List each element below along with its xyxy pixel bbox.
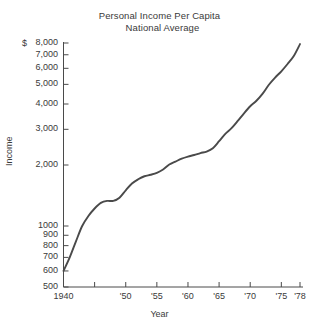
- plot-area: [0, 0, 319, 334]
- axis-lines: [64, 42, 304, 287]
- data-series-lines: [64, 44, 301, 271]
- data-line-personal-income: [64, 44, 301, 271]
- chart-container: Personal Income Per Capita National Aver…: [0, 0, 319, 334]
- axis-ticks: [64, 43, 301, 287]
